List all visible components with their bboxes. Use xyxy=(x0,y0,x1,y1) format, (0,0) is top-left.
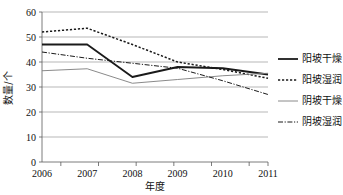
y-tick-label: 0 xyxy=(31,157,36,168)
x-axis-title: 年度 xyxy=(145,180,165,192)
y-axis-title: 数量/个 xyxy=(2,71,14,104)
x-tick-label: 2010 xyxy=(213,168,233,179)
x-tick-label: 2011 xyxy=(258,168,278,179)
x-tick-label: 2008 xyxy=(122,168,142,179)
y-tick-label: 50 xyxy=(26,32,36,43)
legend-label-2: 阴坡干燥 xyxy=(302,94,342,106)
x-tick-label: 2009 xyxy=(168,168,188,179)
legend-label-0: 阳坡干燥 xyxy=(302,52,342,64)
x-tick-label: 2006 xyxy=(32,168,52,179)
x-tick-label: 2007 xyxy=(77,168,97,179)
chart-canvas: 0102030405060 200620072008200920102011 阳… xyxy=(0,0,343,195)
line-chart: 0102030405060 200620072008200920102011 阳… xyxy=(0,0,343,195)
y-tick-label: 40 xyxy=(26,57,36,68)
y-tick-label: 10 xyxy=(26,132,36,143)
y-tick-label: 60 xyxy=(26,7,36,18)
legend-label-3: 阴坡湿润 xyxy=(302,115,342,127)
chart-background xyxy=(0,0,343,195)
y-tick-label: 20 xyxy=(26,107,36,118)
legend-label-1: 阳坡湿润 xyxy=(302,73,342,85)
y-tick-label: 30 xyxy=(26,82,36,93)
